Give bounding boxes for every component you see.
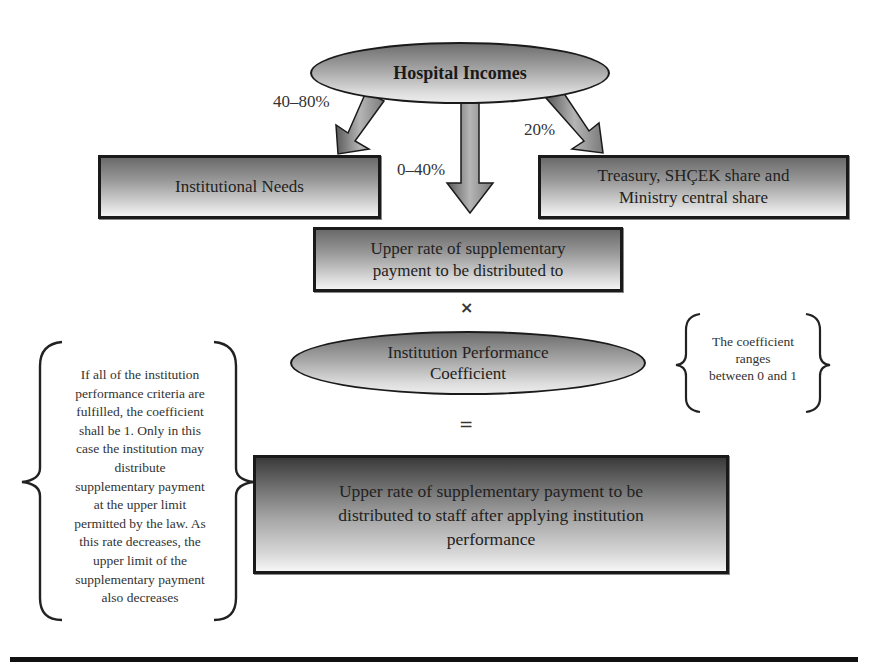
result-box: Upper rate of supplementary payment to b… [253, 455, 729, 574]
criteria-note-line: supplementary payment [50, 478, 230, 497]
coefficient-range-note: The coefficient ranges between 0 and 1 [695, 333, 811, 384]
coefficient-note-line2: ranges [695, 350, 811, 367]
coefficient-line2: Coefficient [430, 363, 506, 384]
arrow-label-center: 0–40% [397, 160, 445, 180]
result-line2: distributed to staff after applying inst… [338, 503, 643, 527]
arrow-left-icon [336, 92, 384, 154]
upper-rate-line1: Upper rate of supplementary [371, 238, 566, 260]
criteria-note-line: permitted by the law. As [50, 515, 230, 534]
treasury-share-box: Treasury, SHÇEK share and Ministry centr… [538, 155, 849, 219]
criteria-note-line: shall be 1. Only in this [50, 422, 230, 441]
criteria-note-line: performance criteria are [50, 385, 230, 404]
result-line3: performance [447, 527, 535, 551]
hospital-incomes-node: Hospital Incomes [310, 42, 610, 104]
criteria-note-line: case the institution may [50, 440, 230, 459]
criteria-note-line: at the upper limit [50, 496, 230, 515]
criteria-note-line: also decreases [50, 589, 230, 608]
treasury-label-line1: Treasury, SHÇEK share and [598, 165, 790, 187]
criteria-note-line: this rate decreases, the [50, 533, 230, 552]
treasury-label-line2: Ministry central share [619, 187, 768, 209]
criteria-note: If all of the institution performance cr… [50, 366, 230, 608]
hospital-incomes-label: Hospital Incomes [393, 63, 527, 84]
criteria-note-line: upper limit of the [50, 552, 230, 571]
equals-symbol: = [459, 414, 473, 434]
criteria-note-line: supplementary payment [50, 571, 230, 590]
horizontal-rule [10, 657, 858, 662]
multiply-symbol: × [460, 298, 473, 317]
criteria-note-line: fulfilled, the coefficient [50, 403, 230, 422]
coefficient-line1: Institution Performance [388, 342, 549, 363]
criteria-note-line: If all of the institution [50, 366, 230, 385]
performance-coefficient-node: Institution Performance Coefficient [290, 331, 646, 395]
upper-rate-box: Upper rate of supplementary payment to b… [313, 227, 623, 292]
institutional-needs-label: Institutional Needs [175, 176, 304, 198]
institutional-needs-box: Institutional Needs [98, 155, 381, 219]
coefficient-note-line1: The coefficient [695, 333, 811, 350]
coefficient-note-line3: between 0 and 1 [695, 367, 811, 384]
upper-rate-line2: payment to be distributed to [373, 260, 564, 282]
result-line1: Upper rate of supplementary payment to b… [339, 479, 643, 503]
arrow-label-left: 40–80% [273, 92, 330, 112]
arrow-down-icon [447, 101, 493, 213]
criteria-note-line: distribute [50, 459, 230, 478]
arrow-label-right: 20% [524, 120, 555, 140]
